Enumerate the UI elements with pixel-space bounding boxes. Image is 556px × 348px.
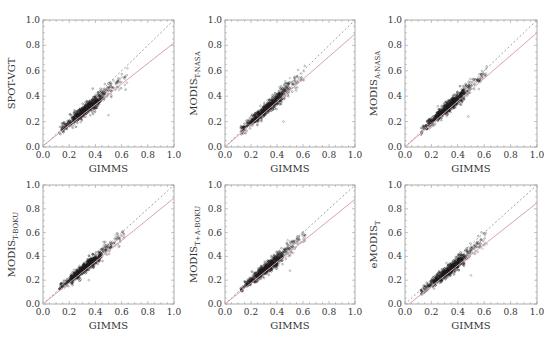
y-tick-label: 0.4 bbox=[388, 251, 403, 261]
y-tick-label: 0.2 bbox=[388, 275, 402, 285]
x-tick-label: 0.2 bbox=[424, 307, 438, 317]
y-axis-title: eMODIST bbox=[368, 220, 382, 268]
x-tick-label: 0.4 bbox=[451, 307, 466, 317]
x-tick-label: 1.0 bbox=[530, 307, 545, 317]
y-tick-label: 0.6 bbox=[388, 228, 403, 238]
x-tick-label: 0.8 bbox=[503, 307, 518, 317]
y-tick-label: 0.8 bbox=[388, 204, 403, 214]
x-axis-title: GIMMS bbox=[451, 320, 490, 331]
y-tick-label: 1.0 bbox=[388, 180, 403, 190]
y-tick-label: 0.0 bbox=[388, 299, 403, 309]
x-tick-label: 0.6 bbox=[477, 307, 492, 317]
